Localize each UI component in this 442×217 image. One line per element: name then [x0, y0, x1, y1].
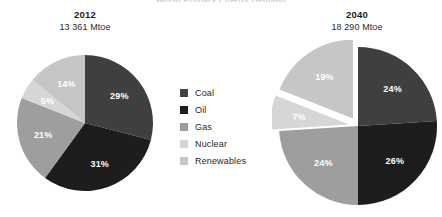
legend-item-gas: Gas: [180, 118, 246, 135]
panel-year-label: 2040: [282, 9, 432, 21]
legend-item-nuclear: Nuclear: [180, 135, 246, 152]
legend-item-oil: Oil: [180, 101, 246, 118]
pie-chart-2040: 24%26%24%7%19%: [272, 40, 442, 212]
pie-slice-label-gas: 21%: [34, 130, 53, 140]
energy-demand-chart-figure: World Primary Energy Demand 2012 13 361 …: [0, 0, 442, 217]
legend-item-label: Renewables: [195, 156, 246, 166]
pie-slice-label-oil: 31%: [90, 159, 109, 169]
legend-swatch-icon: [180, 106, 188, 114]
pie-slice-label-renewables: 19%: [315, 72, 334, 82]
panel-header-2012: 2012 13 361 Mtoe: [10, 9, 160, 34]
legend-swatch-icon: [180, 157, 188, 165]
legend-item-label: Gas: [195, 122, 212, 132]
legend-item-coal: Coal: [180, 84, 246, 101]
figure-title: World Primary Energy Demand: [0, 0, 442, 2]
chart-legend: CoalOilGasNuclearRenewables: [180, 84, 246, 169]
panel-year-label: 2012: [10, 9, 160, 21]
pie-chart-2012: 29%31%21%5%14%: [12, 50, 158, 196]
pie-slice-label-coal: 29%: [110, 91, 129, 101]
pie-slice-label-coal: 24%: [383, 84, 402, 94]
pie-slice-label-nuclear: 7%: [292, 112, 305, 122]
legend-item-label: Coal: [195, 88, 214, 98]
legend-item-label: Oil: [195, 105, 206, 115]
legend-swatch-icon: [180, 140, 188, 148]
legend-swatch-icon: [180, 89, 188, 97]
panel-total-label: 13 361 Mtoe: [10, 21, 160, 34]
pie-slice-label-oil: 26%: [386, 156, 405, 166]
pie-slice-label-renewables: 14%: [57, 79, 76, 89]
legend-item-label: Nuclear: [195, 139, 227, 149]
legend-item-renewables: Renewables: [180, 152, 246, 169]
pie-slice-label-gas: 24%: [314, 158, 333, 168]
panel-total-label: 18 290 Mtoe: [282, 21, 432, 34]
legend-swatch-icon: [180, 123, 188, 131]
panel-header-2040: 2040 18 290 Mtoe: [282, 9, 432, 34]
pie-slice-label-nuclear: 5%: [41, 96, 54, 106]
